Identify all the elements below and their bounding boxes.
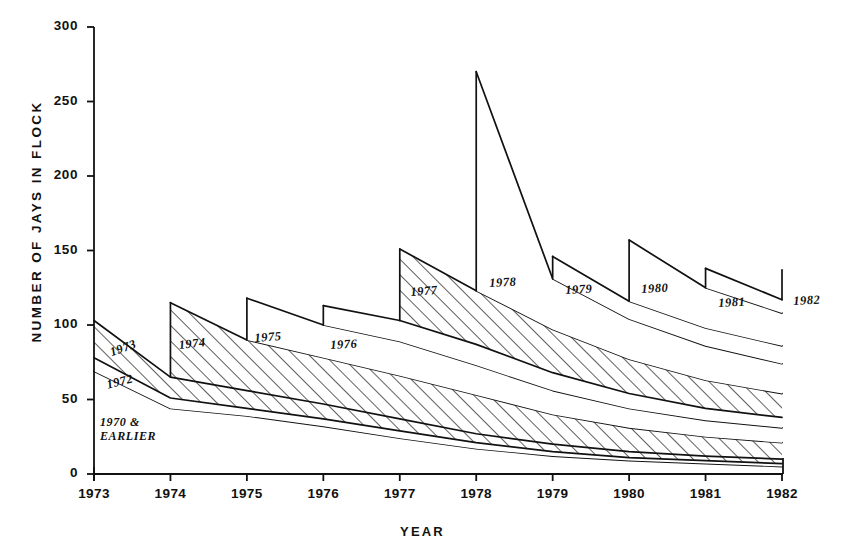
- cohort-label-1977: 1977: [410, 283, 438, 300]
- cohort-label-1980: 1980: [641, 281, 669, 297]
- x-tick-label-1973: 1973: [59, 486, 129, 501]
- x-axis-title: YEAR: [0, 524, 845, 539]
- cohort-label-1970-earlier: 1970 & EARLIER: [100, 415, 156, 443]
- y-tick-label-150: 150: [18, 242, 78, 257]
- cohort-bands: [94, 72, 782, 474]
- y-tick-label-100: 100: [18, 316, 78, 331]
- chart-figure: NUMBER OF JAYS IN FLOCK YEAR 30025020015…: [0, 0, 845, 554]
- y-tick-label-0: 0: [18, 465, 78, 480]
- x-tick-label-1976: 1976: [288, 486, 358, 501]
- x-tick-label-1980: 1980: [594, 486, 664, 501]
- x-tick-label-1981: 1981: [671, 486, 741, 501]
- x-tick-label-1977: 1977: [365, 486, 435, 501]
- cohort-label-1976: 1976: [330, 337, 358, 353]
- cohort-label-1975: 1975: [254, 329, 282, 346]
- x-tick-label-1978: 1978: [441, 486, 511, 501]
- x-tick-label-1979: 1979: [518, 486, 588, 501]
- cohort-label-1979: 1979: [565, 282, 593, 298]
- x-tick-label-1974: 1974: [135, 486, 205, 501]
- x-tick-label-1982: 1982: [747, 486, 817, 501]
- cohort-label-1981: 1981: [718, 295, 746, 311]
- chart-plot-area: [0, 0, 845, 554]
- cohort-label-1974: 1974: [178, 335, 206, 353]
- y-tick-label-50: 50: [18, 391, 78, 406]
- y-tick-label-200: 200: [18, 167, 78, 182]
- y-tick-label-300: 300: [18, 18, 78, 33]
- y-tick-label-250: 250: [18, 93, 78, 108]
- cohort-label-1978: 1978: [489, 275, 517, 291]
- x-tick-label-1975: 1975: [212, 486, 282, 501]
- cohort-label-1982: 1982: [793, 293, 821, 309]
